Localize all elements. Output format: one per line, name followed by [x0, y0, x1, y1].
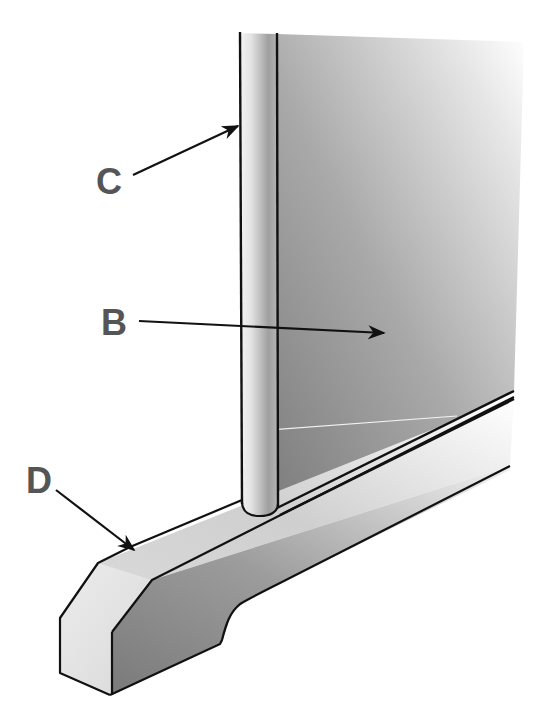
label-b: B [101, 302, 127, 343]
arrow-d [56, 490, 134, 550]
arrow-c [133, 126, 238, 175]
label-c: C [96, 161, 122, 202]
edge-rod-c [240, 32, 278, 516]
diagram-canvas: C B D [0, 0, 546, 716]
label-d: D [26, 460, 52, 501]
